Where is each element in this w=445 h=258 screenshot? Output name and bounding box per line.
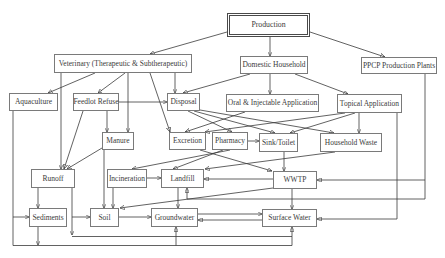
node-ppcp-production-plants: PPCP Production Plants xyxy=(361,57,437,74)
node-domestic-household: Domestic Household xyxy=(240,56,308,74)
edge-production-veterinary xyxy=(150,32,227,54)
node-soil: Soil xyxy=(90,208,119,227)
node-production: Production xyxy=(227,13,310,37)
edge-runoff-surface-water xyxy=(72,227,292,237)
edge-disposal-sink xyxy=(194,111,275,133)
edge-topical-surface-water xyxy=(317,113,397,219)
node-sediments: Sediments xyxy=(29,208,67,227)
edge-domestic-disposal xyxy=(183,74,250,93)
node-veterinary: Veterinary (Therapeutic & Subtherapeutic… xyxy=(54,54,192,73)
node-groundwater: Groundwater xyxy=(151,208,198,227)
edge-domestic-topical xyxy=(295,74,348,94)
node-disposal: Disposal xyxy=(167,93,200,111)
node-landfill: Landfill xyxy=(161,169,204,188)
edge-household-waste-landfill xyxy=(205,152,335,169)
edge-aquaculture-sediments xyxy=(13,111,29,217)
node-pharmacy: Pharmacy xyxy=(212,132,248,150)
edge-wwtp-soil xyxy=(120,188,273,208)
node-oral-injectable-application: Oral & Injectable Application xyxy=(226,94,319,112)
node-aquaculture: Aquaculture xyxy=(9,93,58,111)
node-topical-application: Topical Application xyxy=(337,94,402,113)
edge-feedlot-runoff xyxy=(64,111,83,169)
node-household-waste: Household Waste xyxy=(320,133,382,152)
edge-manure-runoff xyxy=(67,148,102,169)
node-excretion: Excretion xyxy=(169,132,206,150)
node-manure: Manure xyxy=(102,132,134,150)
node-wwtp: WWTP xyxy=(273,171,317,189)
edge-ppcp-wwtp xyxy=(317,74,425,180)
node-incineration: Incineration xyxy=(107,169,147,188)
ppcp-fate-diagram: Production Veterinary (Therapeutic & Sub… xyxy=(0,0,445,258)
node-surface-water: Surface Water xyxy=(262,209,317,227)
edge-veterinary-aquaculture xyxy=(48,73,95,93)
edge-veterinary-feedlot xyxy=(98,73,125,93)
edge-production-ppcp xyxy=(310,32,385,57)
node-sink-toilet: Sink/Toilet xyxy=(259,133,298,152)
node-runoff: Runoff xyxy=(31,169,75,188)
node-feedlot-refuse: Feedlot Refuse xyxy=(73,93,119,111)
